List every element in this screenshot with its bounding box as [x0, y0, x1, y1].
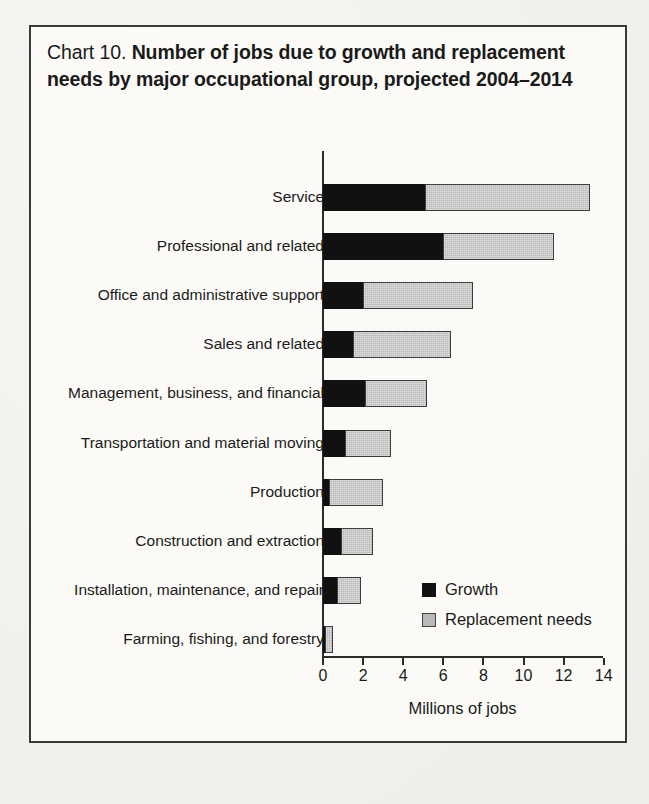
chart-frame: Chart 10. Number of jobs due to growth a…: [29, 25, 627, 743]
x-tick-label: 8: [479, 667, 488, 685]
replacement-swatch-icon: [422, 613, 436, 627]
bar-segment-growth: [323, 577, 337, 604]
category-label: Professional and related: [157, 237, 324, 255]
bar-row: [323, 430, 391, 457]
bar-segment-growth: [323, 233, 443, 260]
x-tick-label: 4: [399, 667, 408, 685]
legend-item-replacement: Replacement needs: [422, 610, 592, 629]
bar-segment-replacement: [345, 430, 391, 457]
legend-item-growth: Growth: [422, 580, 592, 599]
x-tick-mark: [362, 658, 364, 665]
category-label: Management, business, and financial: [68, 384, 324, 402]
legend-label-growth: Growth: [445, 580, 498, 599]
x-tick-label: 2: [359, 667, 368, 685]
category-label: Production: [250, 483, 324, 501]
bar-segment-replacement: [425, 184, 589, 211]
category-label: Construction and extraction: [135, 532, 324, 550]
bar-segment-replacement: [365, 380, 427, 407]
bar-segment-replacement: [443, 233, 553, 260]
category-label: Transportation and material moving: [81, 434, 324, 452]
bar-row: [323, 528, 373, 555]
category-label: Farming, fishing, and forestry: [123, 630, 324, 648]
legend-label-replacement: Replacement needs: [445, 610, 592, 629]
bar-segment-replacement: [363, 282, 473, 309]
bar-row: [323, 282, 473, 309]
bar-segment-replacement: [325, 626, 333, 653]
bar-segment-replacement: [329, 479, 383, 506]
bar-row: [323, 331, 451, 358]
bar-segment-replacement: [353, 331, 451, 358]
bar-segment-replacement: [341, 528, 373, 555]
bar-segment-growth: [323, 331, 353, 358]
bar-segment-growth: [323, 184, 425, 211]
bar-segment-growth: [323, 430, 345, 457]
x-tick-label: 12: [555, 667, 573, 685]
bar-segment-growth: [323, 282, 363, 309]
bar-row: [323, 380, 427, 407]
x-tick-mark: [523, 658, 525, 665]
category-label: Installation, maintenance, and repair: [74, 581, 324, 599]
x-tick-mark: [442, 658, 444, 665]
bar-row: [323, 577, 361, 604]
x-tick-mark: [563, 658, 565, 665]
x-tick-label: 0: [319, 667, 328, 685]
category-label: Sales and related: [203, 335, 324, 353]
x-tick-label: 10: [515, 667, 533, 685]
bar-segment-growth: [323, 380, 365, 407]
category-label: Office and administrative support: [98, 286, 324, 304]
x-axis-title: Millions of jobs: [322, 699, 603, 718]
x-tick-mark: [603, 658, 605, 665]
chart-legend: Growth Replacement needs: [422, 580, 592, 640]
category-label: Service: [272, 188, 324, 206]
bar-row: [323, 184, 590, 211]
bar-row: [323, 479, 383, 506]
x-tick-label: 6: [439, 667, 448, 685]
x-tick-mark: [482, 658, 484, 665]
x-axis-line: [322, 656, 603, 658]
bar-segment-growth: [323, 528, 341, 555]
growth-swatch-icon: [422, 583, 436, 597]
x-tick-mark: [322, 658, 324, 665]
x-tick-mark: [402, 658, 404, 665]
bar-row: [323, 233, 554, 260]
bar-segment-replacement: [337, 577, 361, 604]
plot-area: ServiceProfessional and relatedOffice an…: [31, 27, 625, 741]
x-tick-label: 14: [595, 667, 613, 685]
bar-row: [323, 626, 333, 653]
